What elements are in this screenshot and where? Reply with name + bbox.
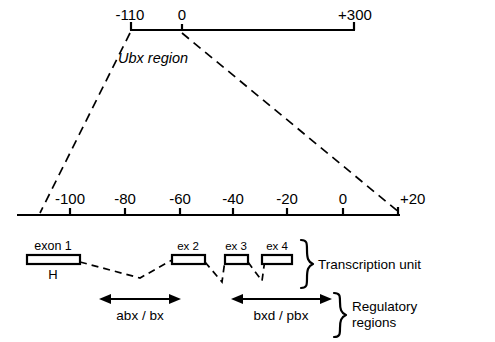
regulatory-regions-label-line1: Regulatory xyxy=(352,299,418,314)
h-site-label: H xyxy=(48,267,57,282)
transcription-unit-brace-icon xyxy=(301,240,313,288)
regulatory-regions-brace-icon xyxy=(334,293,346,337)
exon-2-group: ex 2 xyxy=(172,240,205,264)
abx-bx-arrow-head-left xyxy=(99,294,111,304)
exon-4-group: ex 4 xyxy=(262,240,292,264)
middle-axis-label-minus80: -80 xyxy=(114,190,136,207)
diagram-canvas: -110 0 +300 Ubx region -100 -80 -60 -40 … xyxy=(0,0,495,342)
exon-3-box xyxy=(225,255,248,264)
funnel-line-left xyxy=(40,33,130,213)
abx-bx-label: abx / bx xyxy=(116,308,164,323)
middle-axis-label-plus20: +20 xyxy=(400,190,425,207)
transcription-unit-bracket-group: Transcription unit xyxy=(301,240,421,288)
bxd-pbx-arrow-head-left xyxy=(231,294,243,304)
middle-axis-label-minus100: -100 xyxy=(55,190,85,207)
ubx-gene-map-figure: -110 0 +300 Ubx region -100 -80 -60 -40 … xyxy=(0,0,495,342)
intron-line-2-3 xyxy=(205,260,225,282)
exon-4-box xyxy=(262,255,292,264)
exon-track-group: exon 1 H ex 2 ex 3 ex 4 xyxy=(27,239,292,282)
abx-bx-arrow-group: abx / bx xyxy=(99,294,181,323)
top-axis-label-minus110: -110 xyxy=(116,6,145,23)
exon-1-box xyxy=(27,255,80,264)
expansion-funnel-group xyxy=(40,33,400,213)
exon-3-label: ex 3 xyxy=(225,240,247,252)
exon-1-label: exon 1 xyxy=(34,239,72,253)
middle-axis-label-zero: 0 xyxy=(339,190,347,207)
top-axis-label-plus300: +300 xyxy=(338,6,372,23)
regulatory-regions-label-line2: regions xyxy=(352,315,397,330)
bxd-pbx-arrow-group: bxd / pbx xyxy=(231,294,332,323)
top-axis-label-zero: 0 xyxy=(178,6,186,23)
regulatory-regions-bracket-group: Regulatory regions xyxy=(334,293,418,337)
middle-axis-label-minus40: -40 xyxy=(222,190,244,207)
bxd-pbx-arrow-head-right xyxy=(320,294,332,304)
transcription-unit-label: Transcription unit xyxy=(318,257,421,272)
middle-axis-label-minus20: -20 xyxy=(276,190,298,207)
exon-2-label: ex 2 xyxy=(177,240,199,252)
middle-axis-label-minus60: -60 xyxy=(169,190,191,207)
abx-bx-arrow-head-right xyxy=(169,294,181,304)
funnel-line-right xyxy=(182,33,400,213)
bxd-pbx-label: bxd / pbx xyxy=(254,308,309,323)
top-axis-group: -110 0 +300 Ubx region xyxy=(116,6,372,66)
exon-3-group: ex 3 xyxy=(225,240,248,264)
intron-line-1-2 xyxy=(80,260,172,278)
exon-1-group: exon 1 H xyxy=(27,239,80,282)
exon-2-box xyxy=(172,255,205,264)
middle-axis-group: -100 -80 -60 -40 -20 0 +20 xyxy=(17,190,425,216)
ubx-region-label: Ubx region xyxy=(118,50,188,66)
exon-4-label: ex 4 xyxy=(266,240,288,252)
